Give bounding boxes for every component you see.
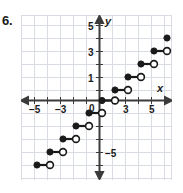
closed-point [125, 74, 131, 80]
closed-point [47, 149, 53, 155]
y-tick-label-1: 1 [88, 74, 94, 84]
open-point [47, 162, 54, 169]
closed-point [73, 123, 79, 129]
open-point [112, 97, 119, 104]
closed-point [99, 97, 105, 103]
x-tick-label-minus5: −5 [29, 105, 40, 115]
y-tick-label-5: 5 [88, 22, 94, 32]
y-tick-label-minus5: −5 [105, 149, 116, 159]
x-axis-label: x [157, 83, 163, 94]
x-tick-label-5: 5 [149, 105, 155, 115]
y-tick-label-3: 3 [88, 48, 94, 58]
coordinate-plane: y x 0 −5 −3 3 5 1 3 5 −5 [21, 15, 172, 180]
step-function-figure: 6. [0, 0, 183, 193]
open-point [138, 74, 145, 81]
x-tick-label-minus3: −3 [55, 105, 66, 115]
open-point [151, 61, 158, 68]
x-axis-arrow-left [21, 97, 28, 104]
closed-point [151, 48, 157, 54]
x-axis-arrow-right [165, 97, 172, 104]
x-tick-label-3: 3 [123, 105, 129, 115]
grid-lines [21, 15, 172, 180]
graph-svg [21, 15, 172, 180]
closed-point-extra [164, 35, 170, 41]
open-point [125, 87, 132, 94]
problem-number-label: 6. [2, 14, 12, 27]
open-point [99, 110, 106, 117]
closed-point [112, 87, 118, 93]
closed-point [34, 162, 40, 168]
open-point [86, 123, 93, 130]
y-axis-arrow-down [96, 172, 103, 179]
origin-tick-label: 0 [89, 104, 95, 114]
closed-point [60, 136, 66, 142]
closed-point [138, 61, 144, 67]
open-point [73, 136, 80, 143]
open-point [164, 48, 171, 55]
y-axis-arrow-up [96, 16, 103, 23]
open-point [60, 149, 67, 156]
axes [21, 16, 172, 179]
y-axis-label: y [105, 16, 111, 27]
